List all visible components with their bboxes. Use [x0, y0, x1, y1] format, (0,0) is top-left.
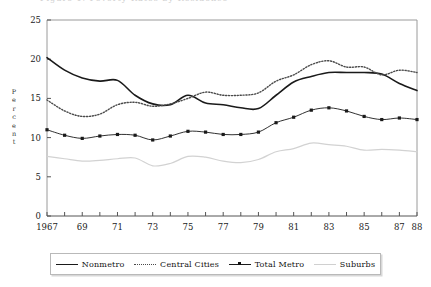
legend-label: Total Metro: [255, 260, 305, 269]
svg-text:81: 81: [288, 222, 299, 232]
light-line-swatch: [314, 260, 336, 268]
svg-text:15: 15: [30, 93, 41, 103]
series-nonmetro: [47, 58, 417, 110]
series-group: [45, 58, 418, 166]
svg-text:85: 85: [359, 222, 370, 232]
legend-item-central-cities[interactable]: Central Cities: [134, 260, 219, 269]
svg-text:5: 5: [36, 172, 41, 182]
solid-line-swatch: [56, 260, 78, 268]
plot-area: 0510152025 19676971737577798183858788: [0, 0, 431, 287]
svg-text:71: 71: [112, 222, 123, 232]
series-total-metro: [45, 106, 418, 141]
legend-item-total-metro[interactable]: Total Metro: [229, 260, 305, 269]
chart-legend: Nonmetro Central Cities Total Metro Subu…: [50, 253, 381, 275]
legend-item-nonmetro[interactable]: Nonmetro: [56, 260, 125, 269]
svg-text:83: 83: [323, 222, 334, 232]
svg-text:77: 77: [218, 222, 229, 232]
svg-text:0: 0: [36, 211, 41, 221]
svg-text:25: 25: [30, 15, 41, 25]
legend-label: Suburbs: [340, 260, 375, 269]
poverty-rate-line-chart: Figure 1. Poverty Rates by Residence P e…: [0, 0, 431, 287]
svg-text:1967: 1967: [36, 222, 58, 232]
svg-text:75: 75: [183, 222, 194, 232]
y-axis-ticks: 0510152025: [30, 15, 51, 221]
legend-label: Central Cities: [160, 260, 219, 269]
svg-text:20: 20: [30, 54, 41, 64]
x-axis-ticks: 19676971737577798183858788: [36, 212, 422, 232]
dotted-line-swatch: [134, 260, 156, 268]
svg-text:10: 10: [30, 133, 41, 143]
series-central-cities: [47, 61, 417, 117]
marker-line-swatch: [229, 260, 251, 268]
axis-frame: [47, 20, 417, 216]
legend-label: Nonmetro: [82, 260, 125, 269]
series-suburbs: [47, 143, 417, 166]
svg-text:79: 79: [253, 222, 264, 232]
svg-text:87: 87: [394, 222, 405, 232]
legend-item-suburbs[interactable]: Suburbs: [314, 260, 375, 269]
svg-text:69: 69: [77, 222, 88, 232]
svg-text:73: 73: [147, 222, 158, 232]
svg-text:88: 88: [412, 222, 423, 232]
